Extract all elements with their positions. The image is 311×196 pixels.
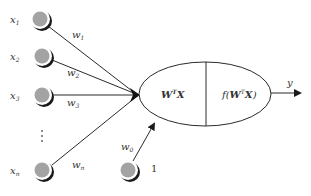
input-x2-node xyxy=(32,46,54,68)
label-w2: w2 xyxy=(67,67,80,79)
output-label-y: y xyxy=(286,77,293,88)
input-xn-node xyxy=(32,160,54,182)
perceptron-diagram: x1 x2 x3 xn w1 w2 w3 wn w0 1 WTX f(WTX) … xyxy=(0,0,311,196)
label-x3: x3 xyxy=(10,90,20,102)
label-bias-one: 1 xyxy=(151,163,157,174)
label-w0: w0 xyxy=(121,141,134,153)
label-x2: x2 xyxy=(10,51,20,63)
bias-edge xyxy=(133,124,154,161)
label-xn: xn xyxy=(10,165,20,177)
bias-node xyxy=(118,160,140,182)
input-x1-node xyxy=(30,9,52,31)
input-x3-node xyxy=(32,85,54,107)
label-w1: w1 xyxy=(72,29,84,41)
label-w3: w3 xyxy=(67,97,80,109)
activation-label: f(WTX) xyxy=(221,88,257,100)
edge-x1 xyxy=(48,26,136,94)
label-wn: wn xyxy=(72,159,85,171)
ellipsis-dots xyxy=(41,130,43,142)
edge-xn xyxy=(52,97,136,165)
label-x1: x1 xyxy=(10,14,19,26)
edge-x2 xyxy=(52,60,136,94)
